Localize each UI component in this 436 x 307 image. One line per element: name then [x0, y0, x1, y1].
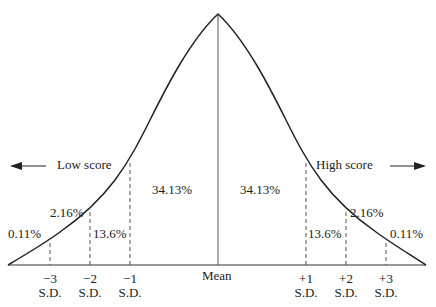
right-tail-percent: 0.11% — [390, 226, 423, 242]
bell-curve-plot — [0, 0, 436, 307]
tick-minus-3: −3S.D. — [30, 272, 70, 300]
tick-plus-2: +2S.D. — [326, 272, 366, 300]
high-score-arrow-icon — [390, 162, 426, 170]
right-34-percent: 34.13% — [240, 182, 280, 198]
tick-plus-3: +3S.D. — [366, 272, 406, 300]
left-13-percent: 13.6% — [93, 226, 127, 242]
tick-plus-1: +1S.D. — [286, 272, 326, 300]
mean-label: Mean — [202, 268, 232, 284]
tick-minus-2: −2S.D. — [70, 272, 110, 300]
right-13-percent: 13.6% — [308, 226, 342, 242]
right-2-percent: 2.16% — [350, 205, 384, 221]
left-2-percent: 2.16% — [50, 205, 84, 221]
low-score-label: Low score — [57, 157, 112, 173]
low-score-arrow-icon — [10, 162, 46, 170]
tick-minus-1: −1S.D. — [110, 272, 150, 300]
normal-curve — [8, 14, 426, 265]
left-34-percent: 34.13% — [152, 182, 192, 198]
left-tail-percent: 0.11% — [8, 226, 41, 242]
high-score-label: High score — [316, 157, 373, 173]
